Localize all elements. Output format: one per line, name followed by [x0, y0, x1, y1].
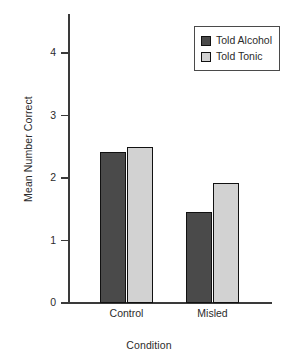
bar-control-told-alcohol	[100, 152, 126, 303]
bar-misled-told-alcohol	[186, 212, 212, 303]
legend-item: Told Alcohol	[201, 33, 272, 48]
x-axis-title: Condition	[0, 339, 298, 351]
chart-legend: Told Alcohol Told Tonic	[194, 26, 280, 71]
x-axis-label-misled: Misled	[173, 307, 253, 319]
bar-control-told-tonic	[127, 147, 153, 303]
legend-label-told-alcohol: Told Alcohol	[216, 35, 272, 46]
bar-chart-figure: Mean Number Correct 01234 ControlMisled …	[0, 0, 298, 362]
legend-item: Told Tonic	[201, 49, 272, 64]
bar-misled-told-tonic	[213, 183, 239, 303]
legend-swatch-told-alcohol	[201, 36, 211, 46]
legend-swatch-told-tonic	[201, 52, 211, 62]
x-axis-label-control: Control	[87, 307, 167, 319]
legend-label-told-tonic: Told Tonic	[216, 51, 263, 62]
